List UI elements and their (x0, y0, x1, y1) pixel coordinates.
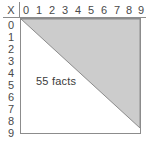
column-header-3: 3 (59, 3, 71, 17)
row-header-3: 3 (4, 55, 18, 67)
column-header-6: 6 (98, 3, 110, 17)
row-header-4: 4 (4, 67, 18, 79)
column-header-0: 0 (20, 3, 32, 17)
column-header-4: 4 (72, 3, 84, 17)
row-header-5: 5 (4, 79, 18, 91)
row-header-6: 6 (4, 91, 18, 103)
row-header-7: 7 (4, 103, 18, 115)
column-header-8: 8 (123, 3, 135, 17)
column-header-9: 9 (135, 3, 147, 17)
row-header-8: 8 (4, 115, 18, 127)
column-header-7: 7 (111, 3, 123, 17)
row-header-2: 2 (4, 43, 18, 55)
row-header-column: 0 1 2 3 4 5 6 7 8 9 (4, 18, 18, 134)
column-header-row: X 0 1 2 3 4 5 6 7 8 9 (4, 3, 146, 17)
row-header-9: 9 (4, 127, 18, 139)
column-header-1: 1 (33, 3, 45, 17)
upper-triangle-shape (21, 19, 140, 128)
column-header-2: 2 (46, 3, 58, 17)
column-header-5: 5 (85, 3, 97, 17)
corner-axis-label: X (4, 3, 18, 17)
multiplication-facts-grid: X 0 1 2 3 4 5 6 7 8 9 0 1 2 3 4 5 6 7 8 … (0, 0, 150, 149)
row-header-0: 0 (4, 19, 18, 31)
plot-area: 55 facts (20, 18, 141, 134)
row-header-1: 1 (4, 31, 18, 43)
region-note-label: 55 facts (36, 75, 76, 87)
